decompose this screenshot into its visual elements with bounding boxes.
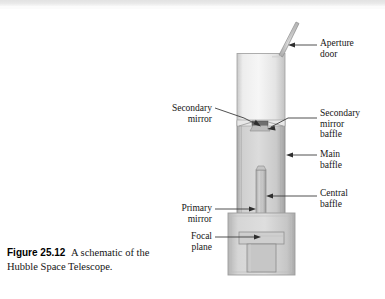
primary-mirror-collar bbox=[239, 232, 284, 244]
figure-page: Aperture door Secondary mirror baffle Ma… bbox=[0, 0, 385, 299]
secondary-mirror-baffle bbox=[250, 126, 270, 132]
label-central-baffle: Central baffle bbox=[320, 188, 382, 209]
figure-caption: Figure 25.12 A schematic of the Hubble S… bbox=[7, 246, 167, 273]
aperture-door bbox=[272, 22, 299, 58]
label-primary-mirror: Primary mirror bbox=[148, 203, 212, 224]
label-main-baffle: Main baffle bbox=[320, 149, 382, 170]
label-secondary-mirror: Secondary mirror bbox=[150, 103, 212, 124]
figure-number: Figure 25.12 bbox=[7, 247, 71, 258]
label-aperture-door: Aperture door bbox=[320, 38, 382, 59]
focal-plane-instruments bbox=[247, 244, 276, 272]
forward-shell bbox=[237, 53, 285, 121]
label-secondary-mirror-baffle: Secondary mirror baffle bbox=[320, 108, 382, 140]
